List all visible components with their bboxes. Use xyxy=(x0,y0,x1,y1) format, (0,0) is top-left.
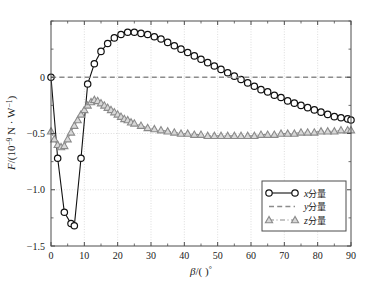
x-tick-label: 60 xyxy=(246,250,256,261)
x-tick-label: 0 xyxy=(49,250,54,261)
x-tick-label: 40 xyxy=(179,250,189,261)
data-marker-circle xyxy=(224,70,230,76)
data-marker-circle xyxy=(331,113,337,119)
data-marker-circle xyxy=(218,66,224,72)
svg-text:β/( )°: β/( )° xyxy=(189,265,212,278)
data-marker-circle xyxy=(54,155,60,161)
data-marker-circle xyxy=(291,100,297,106)
data-marker-circle xyxy=(258,86,264,92)
data-marker-circle xyxy=(311,107,317,113)
data-marker-circle xyxy=(98,48,104,54)
data-marker-circle xyxy=(251,83,257,89)
data-marker-circle xyxy=(204,59,210,65)
figure-container: 0102030405060708090−1.5−1.0−0.50 x分量y分量z… xyxy=(0,0,382,292)
data-marker-circle xyxy=(318,109,324,115)
y-tick-label: −1.5 xyxy=(27,241,45,252)
data-marker-circle xyxy=(264,89,270,95)
data-marker-circle xyxy=(131,29,137,35)
x-tick-label: 90 xyxy=(346,250,356,261)
data-marker-circle xyxy=(138,30,144,36)
data-marker-circle xyxy=(198,56,204,62)
legend: x分量y分量z分量 xyxy=(262,181,346,231)
data-marker-circle xyxy=(78,155,84,161)
data-marker-circle xyxy=(111,35,117,41)
data-marker-circle xyxy=(292,190,298,196)
x-tick-label: 50 xyxy=(213,250,223,261)
y-tick-label: −0.5 xyxy=(27,128,45,139)
x-tick-label: 30 xyxy=(146,250,156,261)
data-marker-circle xyxy=(266,190,272,196)
data-marker-circle xyxy=(324,111,330,117)
data-marker-circle xyxy=(61,209,67,215)
data-marker-circle xyxy=(278,94,284,100)
data-marker-circle xyxy=(284,98,290,104)
data-marker-circle xyxy=(144,31,150,37)
data-marker-circle xyxy=(158,36,164,42)
data-marker-circle xyxy=(191,53,197,59)
legend-item-label: x分量 xyxy=(303,188,326,199)
data-marker-circle xyxy=(184,49,190,55)
data-marker-circle xyxy=(178,46,184,52)
data-marker-circle xyxy=(104,40,110,46)
x-tick-label: 10 xyxy=(79,250,89,261)
data-marker-circle xyxy=(151,34,157,40)
data-marker-circle xyxy=(338,115,344,121)
data-marker-circle xyxy=(71,223,77,229)
x-tick-label: 20 xyxy=(113,250,123,261)
data-marker-circle xyxy=(298,102,304,108)
data-marker-circle xyxy=(91,61,97,67)
data-marker-circle xyxy=(231,73,237,79)
data-marker-circle xyxy=(164,39,170,45)
x-axis-label: β/( )° xyxy=(189,265,212,278)
legend-item-label: z分量 xyxy=(303,215,326,226)
data-marker-circle xyxy=(244,80,250,86)
x-tick-label: 80 xyxy=(313,250,323,261)
data-marker-circle xyxy=(171,43,177,49)
data-marker-circle xyxy=(84,81,90,87)
data-marker-circle xyxy=(118,31,124,37)
data-marker-circle xyxy=(124,29,130,35)
y-tick-label: −1.0 xyxy=(27,184,45,195)
line-chart: 0102030405060708090−1.5−1.0−0.50 x分量y分量z… xyxy=(0,0,382,292)
data-marker-circle xyxy=(304,104,310,110)
legend-item-label: y分量 xyxy=(303,201,326,212)
data-marker-circle xyxy=(211,63,217,69)
y-tick-label: 0 xyxy=(40,72,45,83)
x-tick-label: 70 xyxy=(279,250,289,261)
data-marker-circle xyxy=(271,92,277,98)
